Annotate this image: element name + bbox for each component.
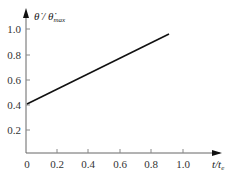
y-tick-label: 1.0	[7, 23, 21, 35]
x-tick-label: 0.4	[81, 158, 95, 170]
y-ticks: 0.2 0.4 0.6 0.8 1.0	[7, 23, 30, 136]
x-ticks: 0 0.2 0.4 0.6 0.8 1.0	[24, 149, 190, 170]
x-tick-label: 0	[24, 158, 30, 170]
chart: 0 0.2 0.4 0.6 0.8 1.0 0.2 0.4 0.6 0.8 1.…	[0, 0, 233, 178]
y-axis-arrow-icon	[23, 8, 29, 18]
x-axis-arrow-icon	[212, 150, 222, 156]
y-tick-label: 0.4	[7, 99, 21, 111]
y-tick-label: 0.8	[7, 49, 21, 61]
y-tick-label: 0.6	[7, 74, 21, 86]
x-axis-label: t/te	[212, 158, 224, 172]
x-tick-label: 0.2	[50, 158, 64, 170]
y-tick-label: 0.2	[7, 124, 21, 136]
x-tick-label: 0.8	[144, 158, 158, 170]
y-axis-label: θ̇ / θ̇max	[34, 10, 66, 24]
x-tick-label: 0.6	[113, 158, 127, 170]
series-line	[27, 34, 169, 104]
x-tick-label: 1.0	[176, 158, 190, 170]
